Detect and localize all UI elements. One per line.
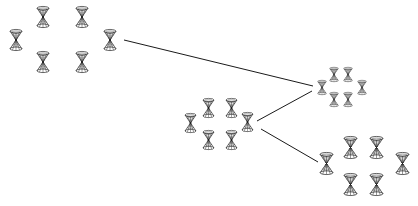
double-cone-icon: [369, 173, 384, 196]
double-cone-icon: [75, 51, 89, 73]
double-cone-icon: [241, 112, 254, 132]
double-cone-icon: [369, 136, 384, 159]
link-cluster-3-to-cluster-2: [257, 91, 312, 121]
double-cone-icon: [184, 113, 197, 133]
double-cone-icon: [36, 6, 50, 28]
double-cone-icon: [343, 136, 358, 159]
double-cone-icon: [9, 29, 23, 51]
double-cone-icon: [75, 6, 89, 28]
double-cone-icon: [329, 67, 339, 82]
double-cone-icon: [225, 130, 238, 150]
double-cone-icon: [343, 67, 353, 82]
double-cone-icon: [225, 98, 238, 118]
double-cone-icon: [103, 29, 117, 51]
double-cone-icon: [343, 92, 353, 107]
double-cone-icon: [317, 80, 327, 95]
link-cluster-1-to-cluster-2: [124, 40, 313, 86]
double-cone-icon: [329, 92, 339, 107]
double-cone-icon: [36, 51, 50, 73]
double-cone-icon: [319, 152, 334, 175]
double-cone-icon: [202, 130, 215, 150]
double-cone-icon: [395, 152, 410, 175]
double-cone-icon: [343, 173, 358, 196]
double-cone-icon: [357, 80, 367, 95]
network-diagram: [0, 0, 418, 206]
double-cone-icon: [202, 98, 215, 118]
link-cluster-3-to-cluster-4: [261, 129, 318, 162]
